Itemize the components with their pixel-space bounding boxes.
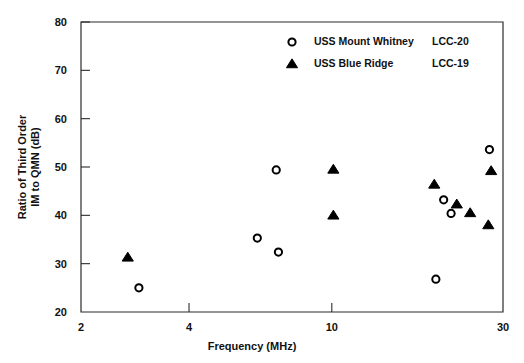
data-point-circle: [447, 210, 454, 217]
data-point-circle: [254, 234, 261, 241]
chart-figure: 20304050607080 241030 Frequency (MHz)Rat…: [0, 0, 524, 363]
x-axis-tick-labels: 241030: [78, 321, 509, 333]
y-axis-title-line1: Ratio of Third Order: [16, 114, 28, 219]
data-point-circle: [135, 284, 142, 291]
data-point-triangle: [122, 252, 133, 261]
x-axis-title: Frequency (MHz): [208, 340, 297, 352]
legend-label-hull: LCC-19: [432, 57, 469, 69]
y-tick-label: 70: [55, 64, 67, 76]
legend-label-name: USS Mount Whitney: [314, 35, 414, 47]
legend-label-name: USS Blue Ridge: [314, 57, 394, 69]
data-markers: [122, 146, 497, 291]
series-blue-ridge: [122, 164, 497, 261]
x-tick-label: 4: [186, 321, 193, 333]
x-tick-label: 10: [326, 321, 338, 333]
chart-legend: USS Mount WhitneyLCC-20USS Blue RidgeLCC…: [286, 35, 468, 69]
legend-marker-circle: [288, 38, 295, 45]
legend-label-hull: LCC-20: [432, 35, 469, 47]
y-tick-label: 30: [55, 258, 67, 270]
legend-marker-triangle: [286, 59, 297, 68]
data-point-triangle: [328, 210, 339, 219]
y-tick-label: 20: [55, 306, 67, 318]
series-mount-whitney: [135, 146, 493, 291]
data-point-circle: [486, 146, 493, 153]
data-point-triangle: [429, 179, 440, 188]
data-point-circle: [432, 276, 439, 283]
y-axis-tick-labels: 20304050607080: [55, 16, 67, 318]
data-point-triangle: [451, 199, 462, 208]
y-tick-label: 40: [55, 209, 67, 221]
y-axis-ticks: [81, 22, 90, 264]
data-point-circle: [275, 248, 282, 255]
data-point-triangle: [328, 164, 339, 173]
y-axis-title-line2: IM to QMN (dB): [29, 127, 41, 207]
data-point-circle: [440, 196, 447, 203]
y-tick-label: 50: [55, 161, 67, 173]
data-point-triangle: [465, 208, 476, 217]
data-point-triangle: [483, 220, 494, 229]
x-tick-label: 2: [78, 321, 84, 333]
x-axis-ticks: [189, 303, 332, 312]
data-point-triangle: [486, 166, 497, 175]
data-point-circle: [273, 166, 280, 173]
scatter-plot-canvas: 20304050607080 241030 Frequency (MHz)Rat…: [0, 0, 524, 363]
x-tick-label: 30: [497, 321, 509, 333]
y-tick-label: 60: [55, 113, 67, 125]
y-tick-label: 80: [55, 16, 67, 28]
